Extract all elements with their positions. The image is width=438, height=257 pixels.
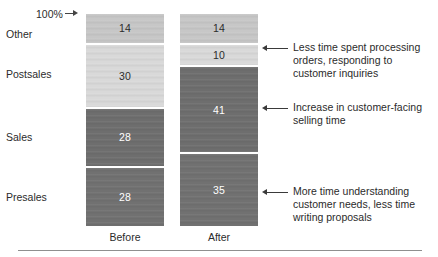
bar-value-before-postsales: 30 <box>119 70 131 82</box>
bar-value-after-presales: 35 <box>213 184 225 196</box>
arrow-left-icon <box>262 102 288 114</box>
bar-segment-before-postsales: 30 <box>86 45 164 109</box>
axis-caption-after: After <box>180 231 258 243</box>
bar-segment-after-postsales: 10 <box>180 45 258 68</box>
bar-value-before-other: 14 <box>119 22 131 34</box>
annotation-sales: Increase in customer-facing selling time <box>262 101 436 127</box>
annotation-text-sales: Increase in customer-facing selling time <box>288 101 436 127</box>
annotation-presales: More time understanding customer needs, … <box>262 185 436 224</box>
row-label-other: Other <box>6 28 32 40</box>
bar-value-after-other: 14 <box>213 22 225 34</box>
arrow-left-icon <box>262 186 288 198</box>
scale-note-arrow-icon <box>65 9 79 17</box>
row-label-postsales: Postsales <box>6 68 52 80</box>
annotation-text-presales: More time understanding customer needs, … <box>288 185 436 224</box>
bar-segment-before-other: 14 <box>86 14 164 45</box>
footer-divider <box>18 250 422 251</box>
annotation-postsales: Less time spent processing orders, respo… <box>262 41 436 80</box>
bar-column-after: 14 10 41 35 <box>180 14 258 226</box>
scale-note: 100% <box>36 8 79 20</box>
bar-segment-after-other: 14 <box>180 14 258 45</box>
arrow-left-icon <box>262 42 288 54</box>
axis-caption-before: Before <box>86 231 164 243</box>
stacked-bar-figure: 100% Other Postsales Sales Presales 14 3… <box>0 0 438 257</box>
annotation-text-postsales: Less time spent processing orders, respo… <box>288 41 436 80</box>
bar-value-after-sales: 41 <box>213 104 225 116</box>
row-label-presales: Presales <box>6 191 47 203</box>
bar-value-after-postsales: 10 <box>213 49 225 61</box>
bar-segment-before-presales: 28 <box>86 168 164 226</box>
bar-segment-after-sales: 41 <box>180 67 258 153</box>
bar-column-before: 14 30 28 28 <box>86 14 164 226</box>
bar-segment-before-sales: 28 <box>86 109 164 169</box>
bar-value-before-presales: 28 <box>119 191 131 203</box>
scale-note-label: 100% <box>36 8 63 20</box>
bar-value-before-sales: 28 <box>119 131 131 143</box>
bar-segment-after-presales: 35 <box>180 154 258 226</box>
row-label-sales: Sales <box>6 131 32 143</box>
